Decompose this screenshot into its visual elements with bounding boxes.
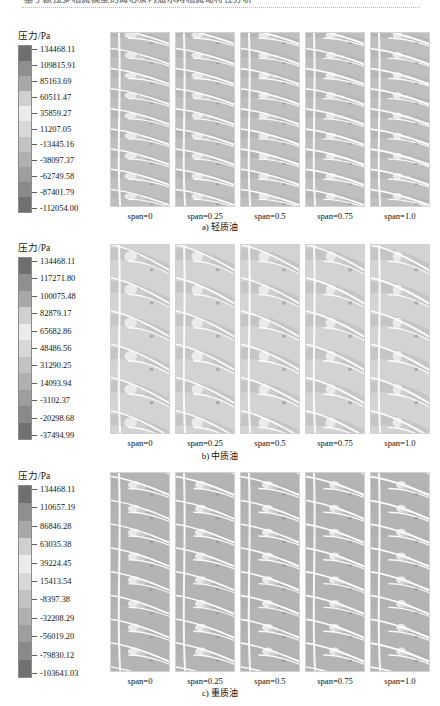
colorbar-title: 压力/Pa bbox=[18, 30, 110, 42]
panel-span-label: span=0.5 bbox=[254, 676, 285, 686]
colorbar-tick: -56019.20 bbox=[32, 632, 74, 641]
colorbar-segment bbox=[19, 152, 31, 167]
colorbar-tick: 39224.45 bbox=[32, 559, 71, 568]
colorbar-segment bbox=[19, 121, 31, 136]
colorbar-segment bbox=[19, 625, 31, 642]
colorbar-a: 压力/Pa134468.11109815.9185163.6960511.473… bbox=[18, 30, 110, 213]
figure-row-light-oil: 压力/Pa134468.11109815.9185163.6960511.473… bbox=[0, 24, 440, 236]
colorbar-tick: -62749.58 bbox=[32, 172, 74, 181]
colorbar-segment bbox=[19, 660, 31, 677]
colorbar-tick: 82879.17 bbox=[32, 309, 71, 318]
panel-span-label: span=1.0 bbox=[384, 438, 415, 448]
colorbar-tick-labels: 134468.11110657.1986846.2863035.3839224.… bbox=[32, 485, 110, 678]
contour-plot[interactable] bbox=[305, 244, 365, 434]
colorbar-segment bbox=[19, 340, 31, 356]
colorbar-segment bbox=[19, 46, 31, 61]
panel-span-label: span=0 bbox=[128, 211, 153, 221]
contour-panels-c: span=0span=0.25span=0.5span=0.75span=1.0 bbox=[110, 472, 430, 686]
colorbar-gradient bbox=[18, 257, 32, 440]
panel-c-0[interactable]: span=0 bbox=[110, 472, 170, 686]
colorbar-segment bbox=[19, 538, 31, 555]
colorbar-tick: 134468.11 bbox=[32, 257, 75, 266]
panel-c-1[interactable]: span=0.25 bbox=[175, 472, 235, 686]
colorbar-segment bbox=[19, 555, 31, 572]
colorbar-tick: -103641.03 bbox=[32, 669, 78, 678]
panel-b-4[interactable]: span=1.0 bbox=[370, 244, 430, 448]
contour-plot[interactable] bbox=[175, 244, 235, 434]
panel-span-label: span=0 bbox=[128, 438, 153, 448]
contour-plot[interactable] bbox=[240, 472, 300, 672]
colorbar-tick-labels: 134468.11117271.80100075.4882879.1765682… bbox=[32, 257, 110, 440]
colorbar-tick: -112054.00 bbox=[32, 204, 78, 213]
panel-span-label: span=0.5 bbox=[254, 211, 285, 221]
colorbar-tick: 85163.69 bbox=[32, 77, 71, 86]
contour-plot[interactable] bbox=[370, 32, 430, 207]
colorbar-segment bbox=[19, 91, 31, 106]
colorbar-tick: 14093.94 bbox=[32, 379, 71, 388]
colorbar-segment bbox=[19, 608, 31, 625]
contour-plot[interactable] bbox=[240, 244, 300, 434]
colorbar-tick: 65682.86 bbox=[32, 327, 71, 336]
colorbar-segment bbox=[19, 197, 31, 212]
colorbar-segment bbox=[19, 357, 31, 373]
colorbar-tick: 117271.80 bbox=[32, 274, 75, 283]
panel-a-1[interactable]: span=0.25 bbox=[175, 32, 235, 221]
contour-plot[interactable] bbox=[240, 32, 300, 207]
colorbar-segment bbox=[19, 503, 31, 520]
panel-span-label: span=0.75 bbox=[317, 438, 353, 448]
colorbar-tick: 110657.19 bbox=[32, 503, 75, 512]
contour-plot[interactable] bbox=[370, 472, 430, 672]
contour-plot[interactable] bbox=[110, 472, 170, 672]
colorbar-tick: -20298.68 bbox=[32, 414, 74, 423]
figure-row-heavy-oil: 压力/Pa134468.11110657.1986846.2863035.383… bbox=[0, 466, 440, 706]
row-caption-c: c) 重质油 bbox=[0, 688, 440, 699]
panel-b-2[interactable]: span=0.5 bbox=[240, 244, 300, 448]
colorbar-tick: -13445.16 bbox=[32, 140, 74, 149]
contour-plot[interactable] bbox=[305, 472, 365, 672]
header-title: 基于欧拉多相流模型的离心泵内油水两相流动特性分析 bbox=[24, 0, 252, 5]
panel-b-1[interactable]: span=0.25 bbox=[175, 244, 235, 448]
colorbar-segment bbox=[19, 521, 31, 538]
colorbar-tick: 109815.91 bbox=[32, 61, 76, 70]
colorbar-segment bbox=[19, 167, 31, 182]
contour-plot[interactable] bbox=[175, 32, 235, 207]
panel-a-0[interactable]: span=0 bbox=[110, 32, 170, 221]
panel-a-3[interactable]: span=0.75 bbox=[305, 32, 365, 221]
panel-span-label: span=1.0 bbox=[384, 676, 415, 686]
panel-c-3[interactable]: span=0.75 bbox=[305, 472, 365, 686]
figure-row-medium-oil: 压力/Pa134468.11117271.80100075.4882879.17… bbox=[0, 238, 440, 466]
panel-c-2[interactable]: span=0.5 bbox=[240, 472, 300, 686]
colorbar-segment bbox=[19, 642, 31, 659]
colorbar-tick: -79830.12 bbox=[32, 651, 74, 660]
panel-span-label: span=0.5 bbox=[254, 438, 285, 448]
contour-plot[interactable] bbox=[175, 472, 235, 672]
panel-c-4[interactable]: span=1.0 bbox=[370, 472, 430, 686]
colorbar-segment bbox=[19, 137, 31, 152]
contour-plot[interactable] bbox=[305, 32, 365, 207]
contour-panels-b: span=0span=0.25span=0.5span=0.75span=1.0 bbox=[110, 244, 430, 448]
colorbar-segment bbox=[19, 106, 31, 121]
row-caption-a: a) 轻质油 bbox=[0, 222, 440, 233]
header-divider bbox=[22, 7, 420, 9]
panel-a-2[interactable]: span=0.5 bbox=[240, 32, 300, 221]
panel-span-label: span=0.75 bbox=[317, 676, 353, 686]
colorbar-c: 压力/Pa134468.11110657.1986846.2863035.383… bbox=[18, 470, 110, 678]
colorbar-segment bbox=[19, 486, 31, 503]
colorbar-tick: 60511.47 bbox=[32, 93, 71, 102]
colorbar-tick: 100075.48 bbox=[32, 292, 76, 301]
colorbar-segment bbox=[19, 423, 31, 439]
colorbar-b: 压力/Pa134468.11117271.80100075.4882879.17… bbox=[18, 242, 110, 440]
panel-span-label: span=0.25 bbox=[187, 676, 223, 686]
colorbar-tick: 35859.27 bbox=[32, 109, 71, 118]
colorbar-segment bbox=[19, 590, 31, 607]
contour-plot[interactable] bbox=[370, 244, 430, 434]
colorbar-segment bbox=[19, 76, 31, 91]
panel-a-4[interactable]: span=1.0 bbox=[370, 32, 430, 221]
colorbar-segment bbox=[19, 324, 31, 340]
panel-b-0[interactable]: span=0 bbox=[110, 244, 170, 448]
colorbar-segment bbox=[19, 307, 31, 323]
contour-plot[interactable] bbox=[110, 244, 170, 434]
colorbar-tick: 134468.11 bbox=[32, 485, 75, 494]
panel-b-3[interactable]: span=0.75 bbox=[305, 244, 365, 448]
contour-plot[interactable] bbox=[110, 32, 170, 207]
